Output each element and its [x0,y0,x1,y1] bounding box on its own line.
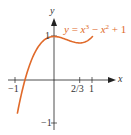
y-axis-arrow-icon [51,18,57,26]
x-axis-arrow-icon [108,77,116,83]
x-tick-label-1: 1 [89,84,94,94]
y-axis-label: y [50,6,54,16]
x-axis-label: x [118,74,122,84]
x-tick-label-neg1: −1 [8,84,19,94]
y-tick-label-1: 1 [45,31,50,41]
y-tick-label-neg1: −1 [41,118,52,128]
x-tick-label-two-thirds: 2/3 [71,84,84,94]
function-plot [0,0,131,135]
equation-label: y = x3 − x2 + 1 [64,24,126,35]
function-curve [17,37,92,114]
